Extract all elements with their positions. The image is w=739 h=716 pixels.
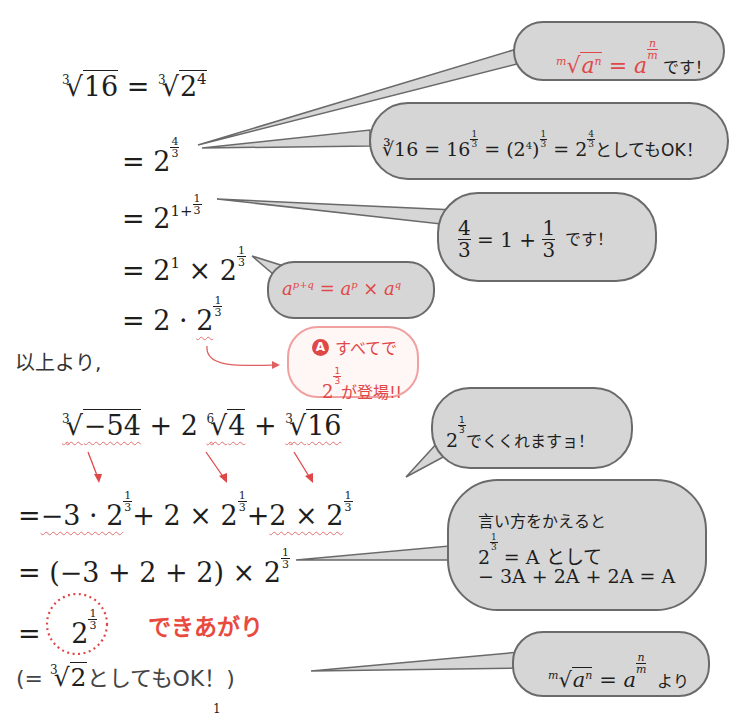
radicand: 16 — [83, 70, 118, 102]
bubble7-line1: 言い方をかえると — [478, 510, 675, 533]
exponent-integer: 1+ — [170, 202, 192, 220]
therefore-label: 以上より, — [15, 347, 101, 376]
fraction-exponent: 13 — [281, 547, 290, 570]
step1-term-2: 2 × 213 — [164, 500, 247, 531]
plus-sign: + — [254, 410, 277, 441]
answer-base: 2 — [71, 618, 88, 649]
equals-sign: = — [122, 305, 145, 336]
cropped-fragment: 1 — [213, 703, 221, 715]
fraction-exponent: 13 — [237, 245, 246, 268]
plus-sign: + — [149, 410, 172, 441]
derivation-line-4: = 21 × 213 — [122, 245, 246, 284]
equals-sign: = — [18, 618, 41, 649]
exponent: 1 — [170, 254, 180, 272]
problem-expression: 3√−54 + 2 6√4 + 3√16 — [62, 412, 342, 439]
highlighted-term: 213 — [196, 305, 222, 336]
pointer-arrowhead-a — [272, 361, 280, 369]
derivation-line-2: = 243 — [122, 136, 179, 175]
coefficient: 2 — [181, 410, 198, 441]
equals-sign: = — [18, 500, 41, 531]
bubble-3-tail — [217, 199, 455, 225]
bubble-8: m√an = anm より — [548, 652, 689, 692]
bubble1-formula: m√an = anm — [556, 53, 658, 78]
bubble-1: m√an = anm です！ — [556, 38, 711, 78]
done-label: できあがり — [148, 608, 263, 642]
bubble-4: ap+q = ap × aq — [282, 280, 401, 298]
bubble7-line2: 213 = A として — [478, 533, 675, 567]
derivation-line-5: = 2 · 213 — [122, 295, 222, 334]
arrowhead-term3 — [305, 473, 313, 483]
step-1: =−3 · 213+ 2 × 213+2 × 213 — [18, 490, 353, 529]
base: 2 — [153, 203, 170, 234]
pointer-arrow-a — [207, 346, 278, 366]
term-1: 3√−54 — [62, 410, 141, 441]
equals-sign: = — [122, 203, 145, 234]
dot-operator: · — [179, 305, 188, 336]
derivation-line-3: = 21+13 — [122, 193, 202, 232]
bubble-2: ∛16 = 1613 = (24)13 = 243としてもOK！ — [382, 130, 703, 159]
bubble-3: 43 = 1 + 13 です！ — [458, 218, 613, 261]
times-sign: × — [189, 255, 212, 286]
fraction-1-3: 13 — [542, 218, 555, 261]
root-index: 3 — [62, 73, 70, 87]
base: 2 — [220, 255, 237, 286]
equals-sign: = — [127, 71, 150, 102]
step-2: = (−3 + 2 + 2) × 213 — [18, 547, 290, 586]
fraction-exponent: 43 — [170, 136, 179, 159]
arrowhead-term2 — [219, 473, 227, 483]
base: 2 — [153, 146, 170, 177]
bubble-8-tail — [311, 652, 520, 671]
step-4: (= 3√2としてもOK！) — [16, 660, 235, 692]
bubble-6: 213でくくれますョ！ — [446, 416, 594, 452]
bubble3-mid: = 1 + — [471, 230, 543, 250]
step-3: = 213 — [18, 608, 97, 647]
bubble-5: A すべてで 213が登場!! — [312, 335, 402, 403]
arrow-term3 — [294, 452, 310, 478]
open-paren: (= — [16, 666, 50, 691]
plus-sign: + — [132, 500, 155, 531]
alternative-note: としてもOK！) — [87, 666, 235, 691]
arrow-term2 — [206, 452, 224, 478]
root-index: 3 — [50, 663, 58, 677]
bubble7-line3: − 3A + 2A + 2A = A — [478, 567, 675, 586]
bubble2-part: = (2 — [478, 138, 526, 160]
step1-term-1: −3 · 213 — [41, 500, 133, 531]
badge-a-icon: A — [312, 339, 329, 356]
bubble2-part: ∛16 = 16 — [382, 138, 470, 160]
arrowhead-term1 — [94, 474, 102, 483]
answer-exponent: 13 — [88, 608, 97, 631]
bubble3-tail-text: です！ — [555, 232, 613, 248]
term-3: 3√16 — [285, 410, 341, 441]
fraction-exponent: 13 — [193, 193, 202, 216]
bubble8-formula: m√an = anm — [548, 668, 646, 692]
coefficient: 2 — [153, 305, 170, 336]
term-2: 6√4 — [206, 410, 245, 441]
equals-sign: = — [122, 255, 145, 286]
radicand: 2 — [70, 662, 87, 692]
bubble-7-tail — [296, 545, 460, 560]
bubble1-tail-text: です！ — [658, 58, 711, 77]
bubble-7: 言い方をかえると 213 = A として − 3A + 2A + 2A = A — [478, 510, 675, 586]
bubble8-tail-text: より — [646, 672, 688, 691]
bubble5-line1: すべてで — [335, 335, 397, 359]
radicand: 24 — [179, 70, 207, 102]
bubble6-text: でくくれますョ！ — [466, 432, 594, 451]
base: 2 — [153, 255, 170, 286]
derivation-line-1: 3√16 = 3√24 — [62, 72, 207, 100]
step2-expression: = (−3 + 2 + 2) × 2 — [18, 557, 281, 588]
bubble2-tail-text: としてもOK！ — [595, 140, 703, 160]
step1-term-3: 2 × 213 — [269, 500, 352, 531]
bubble5-line2: 213が登場!! — [322, 367, 402, 403]
bubble-2-tail — [202, 130, 370, 148]
plus-sign: + — [247, 500, 270, 531]
equals-sign: = — [122, 146, 145, 177]
fraction-4-3: 43 — [458, 218, 471, 261]
root-index: 3 — [158, 73, 166, 87]
